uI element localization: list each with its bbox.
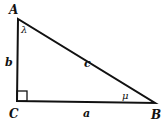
angle-label-mu: μ — [122, 90, 129, 101]
vertex-label-a: A — [8, 3, 18, 17]
vertex-label-c: C — [9, 107, 19, 121]
right-angle-marker — [17, 91, 27, 101]
vertex-label-b: B — [150, 108, 161, 122]
side-label-a: a — [83, 107, 90, 120]
angle-label-lambda: λ — [20, 24, 27, 35]
right-triangle-diagram: A C B b c a λ μ — [0, 0, 166, 123]
side-label-b: b — [5, 56, 13, 69]
side-label-c: c — [84, 57, 91, 70]
